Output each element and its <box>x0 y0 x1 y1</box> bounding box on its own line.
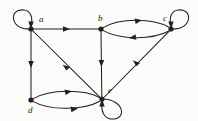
edge-c-c-self-loop <box>170 10 188 29</box>
edge-a-a-self-loop <box>13 10 31 29</box>
node-c[interactable] <box>168 26 173 31</box>
arrowhead-a-b <box>63 26 70 32</box>
node-e[interactable] <box>99 96 104 101</box>
edge-c-b-lower <box>103 31 169 38</box>
edge-e-e-self-loop <box>102 99 122 119</box>
node-b[interactable] <box>98 26 103 31</box>
node-d[interactable] <box>28 97 33 102</box>
node-label-a: a <box>39 14 44 24</box>
arrowhead-a-d <box>28 61 34 68</box>
node-a[interactable] <box>28 26 33 31</box>
arrowhead-d-e-upper <box>65 90 73 96</box>
arrowhead-a-e <box>63 65 70 71</box>
arrowhead-b-e <box>99 60 105 67</box>
arrowhead-b-c <box>135 19 142 25</box>
arrowhead-e-c <box>133 60 140 66</box>
node-label-e: e <box>108 85 112 95</box>
node-label-c: c <box>163 13 167 23</box>
edge-d-e-lower <box>33 101 99 108</box>
node-label-layer: a b c d e <box>28 13 167 115</box>
graph-figure: a b c d e <box>0 0 198 121</box>
edge-a-e <box>33 31 100 97</box>
node-label-d: d <box>28 105 33 115</box>
graph-canvas: a b c d e <box>0 0 198 121</box>
node-label-b: b <box>98 13 103 23</box>
